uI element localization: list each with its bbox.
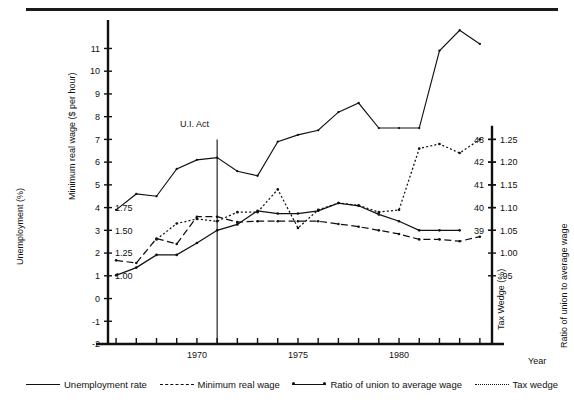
data-point bbox=[418, 127, 420, 129]
data-point bbox=[398, 209, 401, 212]
data-point bbox=[115, 259, 118, 262]
series-line bbox=[116, 217, 480, 263]
data-point bbox=[398, 233, 401, 236]
data-point bbox=[135, 262, 138, 265]
data-point bbox=[196, 218, 199, 221]
axis-title-left-inner: Minimum real wage ($ per hour) bbox=[68, 72, 77, 200]
axis-title-left-outer: Unemployment (%) bbox=[16, 188, 25, 265]
legend-item-minimum-real-wage: Minimum real wage bbox=[160, 379, 280, 390]
left-axis-tick-label: -1 bbox=[92, 317, 100, 327]
data-point bbox=[438, 229, 441, 232]
data-point bbox=[479, 235, 482, 238]
data-point bbox=[317, 220, 320, 223]
dashed-line-key bbox=[160, 380, 194, 389]
data-point bbox=[196, 159, 198, 161]
chart-canvas: -2-1012345678910111.001.251.501.75394041… bbox=[0, 0, 574, 400]
data-point bbox=[236, 170, 238, 172]
data-point bbox=[115, 274, 118, 277]
data-point bbox=[378, 211, 381, 214]
data-point bbox=[277, 141, 279, 143]
axis-title-x: Year bbox=[528, 357, 546, 366]
data-point bbox=[175, 222, 178, 225]
data-point bbox=[115, 209, 117, 211]
dotted-line-key bbox=[475, 380, 509, 389]
left-axis-tick-label: 2 bbox=[95, 248, 100, 258]
data-point bbox=[337, 202, 340, 205]
data-point bbox=[155, 195, 157, 197]
right-outer-axis-tick-label: 1.20 bbox=[500, 157, 518, 167]
axis-title-right-inner: Tax Wedge (%) bbox=[497, 269, 506, 330]
series-unemployment-rate bbox=[115, 29, 481, 211]
ui-act-annotation-label: U.I. Act bbox=[180, 120, 209, 129]
right-inner-axis-tick-label: 41 bbox=[474, 180, 484, 190]
axis-title-right-outer: Ratio of union to average wage bbox=[560, 223, 569, 348]
left-axis-tick-label: 0 bbox=[95, 294, 100, 304]
data-point bbox=[175, 254, 178, 257]
series-group bbox=[115, 29, 481, 277]
right-inner-axis-tick-label: 39 bbox=[474, 226, 484, 236]
data-point bbox=[176, 168, 178, 170]
right-outer-axis-tick-label: 1.10 bbox=[500, 203, 518, 213]
right-outer-axis-tick-label: 1.00 bbox=[500, 248, 518, 258]
data-point bbox=[357, 102, 359, 104]
data-point bbox=[276, 188, 279, 191]
data-point bbox=[256, 220, 259, 223]
data-point bbox=[438, 143, 441, 146]
data-point bbox=[337, 223, 340, 226]
data-point bbox=[135, 193, 137, 195]
data-point bbox=[357, 204, 360, 207]
left-axis-tick-label: 3 bbox=[95, 226, 100, 236]
chart-legend: Unemployment rateMinimum real wageRatio … bbox=[26, 376, 558, 392]
data-point bbox=[418, 238, 421, 241]
x-axis-tick-label: 1980 bbox=[389, 350, 409, 360]
left-axis-tick-label: 6 bbox=[95, 157, 100, 167]
legend-item-ratio-of-union-to-average-wage: Ratio of union to average wage bbox=[292, 379, 462, 390]
right-outer-axis-tick-label: 1.05 bbox=[500, 226, 518, 236]
data-point bbox=[458, 229, 461, 232]
data-point bbox=[459, 29, 461, 31]
data-point bbox=[256, 211, 259, 214]
legend-label: Unemployment rate bbox=[64, 379, 147, 390]
dot-line-dot-key bbox=[292, 380, 326, 389]
data-point bbox=[418, 229, 421, 232]
series-line bbox=[116, 30, 480, 210]
figure-container: -2-1012345678910111.001.251.501.75394041… bbox=[0, 0, 574, 400]
left-axis-tick-label: 8 bbox=[95, 112, 100, 122]
left-axis-tick-label: 5 bbox=[95, 180, 100, 190]
legend-label: Ratio of union to average wage bbox=[330, 379, 462, 390]
left-axis-tick-label: 1 bbox=[95, 271, 100, 281]
data-point bbox=[337, 111, 339, 113]
data-point bbox=[155, 238, 158, 241]
left-axis-tick-label: 9 bbox=[95, 89, 100, 99]
legend-item-unemployment-rate: Unemployment rate bbox=[26, 379, 147, 390]
data-point bbox=[378, 229, 381, 232]
data-point bbox=[378, 213, 381, 216]
right-inner-axis-tick-label: 40 bbox=[474, 203, 484, 213]
left-axis-tick-label: 11 bbox=[91, 44, 100, 54]
x-axis-tick-label: 1970 bbox=[187, 350, 207, 360]
series-minimum-real-wage bbox=[115, 215, 481, 264]
data-point bbox=[155, 254, 158, 257]
data-point bbox=[196, 215, 199, 218]
data-point bbox=[317, 129, 319, 131]
data-point bbox=[479, 138, 482, 141]
data-point bbox=[276, 220, 279, 223]
series-ratio-of-union-to-average-wage bbox=[115, 202, 461, 277]
left-axis-tick-label: 4 bbox=[95, 203, 100, 213]
legend-item-tax-wedge: Tax wedge bbox=[475, 379, 558, 390]
data-point bbox=[438, 50, 440, 52]
x-axis-tick-label: 1975 bbox=[288, 350, 308, 360]
left-inner-axis-tick-label: 1.25 bbox=[115, 248, 133, 258]
data-point bbox=[458, 152, 461, 155]
data-point bbox=[398, 127, 400, 129]
solid-line-key bbox=[26, 380, 60, 389]
data-point bbox=[196, 242, 199, 245]
data-point bbox=[357, 225, 360, 228]
legend-label: Tax wedge bbox=[513, 379, 558, 390]
data-point bbox=[438, 238, 441, 241]
right-outer-axis-tick-label: 1.15 bbox=[500, 180, 518, 190]
right-outer-axis-tick-label: 1.25 bbox=[500, 135, 518, 145]
data-point bbox=[256, 175, 258, 177]
data-point bbox=[276, 212, 279, 215]
series-tax-wedge bbox=[155, 138, 481, 241]
